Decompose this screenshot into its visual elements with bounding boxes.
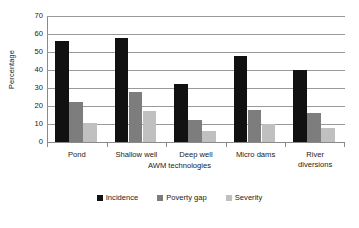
- bar: [262, 124, 276, 142]
- x-tick-label-line: Deep well: [166, 150, 226, 160]
- x-tick: [47, 143, 48, 147]
- bar: [188, 120, 202, 142]
- legend-swatch-icon: [97, 195, 103, 201]
- legend-swatch-icon: [226, 195, 232, 201]
- x-tick-label: Shallow well: [107, 150, 167, 160]
- x-tick-label: Deep well: [166, 150, 226, 160]
- bar: [69, 102, 83, 142]
- bar-group: [285, 16, 345, 142]
- y-tick-label-0: 0: [21, 138, 43, 146]
- x-tick: [285, 143, 286, 147]
- bar: [115, 38, 129, 142]
- y-axis-title: Percentage: [7, 30, 16, 110]
- y-tick-label-50: 50: [21, 48, 43, 56]
- y-tick-label-20: 20: [21, 102, 43, 110]
- legend-item: Incidence: [97, 193, 139, 202]
- bar: [248, 110, 262, 142]
- bar: [174, 84, 188, 142]
- x-tick-label-line: Shallow well: [107, 150, 167, 160]
- y-tick-label-60: 60: [21, 30, 43, 38]
- bar: [293, 70, 307, 142]
- bar: [143, 111, 157, 143]
- y-tick-label-10: 10: [21, 120, 43, 128]
- bar-group: [226, 16, 286, 142]
- x-tick-label-line: Micro dams: [226, 150, 286, 160]
- y-tick-label-40: 40: [21, 66, 43, 74]
- legend-item: Poverty gap: [157, 193, 207, 202]
- x-tick: [226, 143, 227, 147]
- x-axis-ticks: [47, 143, 345, 147]
- bar: [321, 128, 335, 142]
- bar: [307, 113, 321, 142]
- bar-group: [107, 16, 167, 142]
- x-tick-label-line: River: [285, 150, 345, 160]
- y-tick-label-70: 70: [21, 12, 43, 20]
- legend-label: Poverty gap: [166, 193, 207, 202]
- bar-group: [47, 16, 107, 142]
- bar: [55, 41, 69, 142]
- chart-legend: IncidencePoverty gapSeverity: [0, 193, 359, 202]
- x-tick-label: Micro dams: [226, 150, 286, 160]
- x-tick: [166, 143, 167, 147]
- legend-swatch-icon: [157, 195, 163, 201]
- bar-group: [166, 16, 226, 142]
- legend-label: Incidence: [106, 193, 139, 202]
- bars-layer: [47, 16, 345, 142]
- bar: [83, 123, 97, 142]
- x-tick: [344, 143, 345, 147]
- y-axis-tick-labels: 706050403020100: [18, 16, 43, 142]
- x-tick-label-line: Pond: [47, 150, 107, 160]
- bar: [234, 56, 248, 142]
- y-tick-label-30: 30: [21, 84, 43, 92]
- x-axis-title: AWM technologies: [0, 161, 359, 170]
- plot-area: [47, 16, 345, 142]
- legend-label: Severity: [235, 193, 262, 202]
- bar: [202, 131, 216, 142]
- x-tick-label: Pond: [47, 150, 107, 160]
- x-tick: [107, 143, 108, 147]
- legend-item: Severity: [226, 193, 262, 202]
- bar-chart: Percentage 706050403020100 PondShallow w…: [0, 0, 359, 228]
- bar: [129, 92, 143, 142]
